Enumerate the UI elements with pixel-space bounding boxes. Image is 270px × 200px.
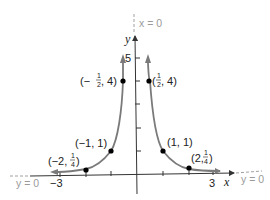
svg-text:1: 1 <box>204 149 208 156</box>
y-axis <box>135 36 137 194</box>
point-pos2-quarter <box>186 165 191 170</box>
svg-text:1: 1 <box>71 152 75 159</box>
svg-text:4: 4 <box>71 161 75 168</box>
svg-text:(: ( <box>152 75 156 87</box>
point-pos1-1 <box>160 148 165 153</box>
label-pos1-1: (1, 1) <box>167 136 193 148</box>
svg-text:(−2,: (−2, <box>48 155 67 167</box>
label-pos2-quarter: (2, 1 4 ) <box>191 149 213 165</box>
point-neg2-quarter <box>83 167 88 172</box>
label-neg1-1: (−1, 1) <box>75 137 107 149</box>
x-tick-label-3: 3 <box>209 177 215 189</box>
svg-text:, 4): , 4) <box>161 75 177 87</box>
y-axis-label: y <box>124 32 131 46</box>
asymptote-y0-left-label: y = 0 <box>16 177 39 189</box>
label-neg2-quarter: (−2, 1 4 ) <box>48 152 80 168</box>
curve-left-arrow-left <box>50 169 58 175</box>
label-pos-half-4: ( 1 2 , 4) <box>152 72 177 88</box>
asymptote-y0-right-label: y = 0 <box>241 173 264 185</box>
point-neg-half-4 <box>120 78 125 83</box>
x-tick-label-neg3: −3 <box>50 177 63 189</box>
point-neg1-1 <box>108 148 113 153</box>
svg-text:(−: (− <box>80 75 90 87</box>
graph-reciprocal-square: x = 0 y = 0 y = 0 5 −3 3 y x <box>0 0 270 200</box>
svg-text:): ) <box>209 152 213 164</box>
svg-text:4: 4 <box>204 158 208 165</box>
label-neg-half-4: (− 1 2 , 4) <box>80 72 117 88</box>
y-tick-label-5: 5 <box>125 52 131 64</box>
x-axis-label: x <box>223 175 230 189</box>
asymptote-x0-label: x = 0 <box>139 17 162 29</box>
svg-text:): ) <box>76 155 80 167</box>
curve-right-arrow-up <box>145 54 151 63</box>
svg-text:, 4): , 4) <box>101 75 117 87</box>
x-axis <box>30 173 234 176</box>
point-pos-half-4 <box>146 78 151 83</box>
svg-text:(2,: (2, <box>191 152 204 164</box>
